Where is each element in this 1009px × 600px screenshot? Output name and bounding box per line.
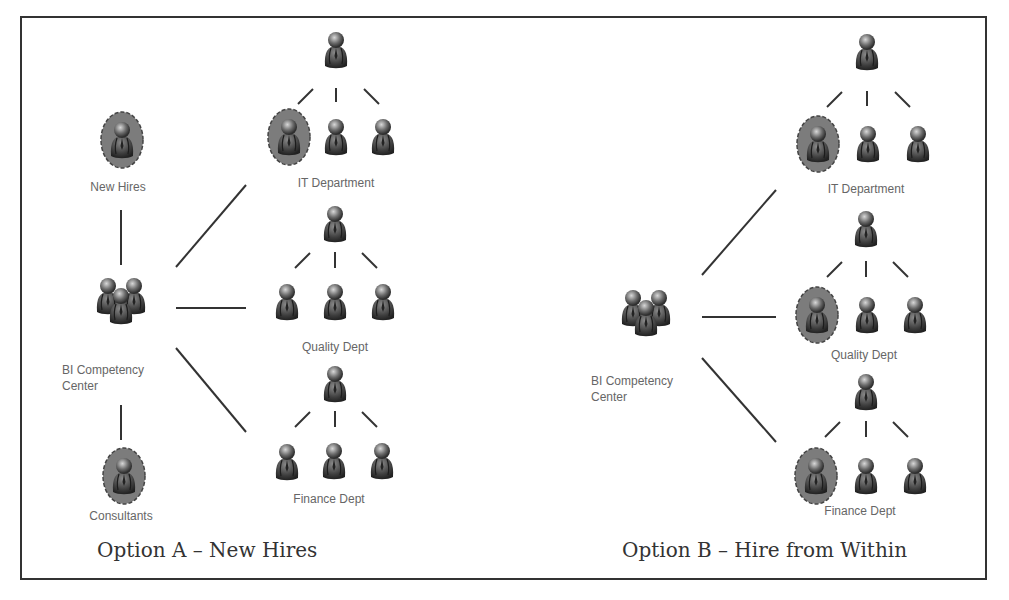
it-department-label: IT Department (298, 176, 374, 190)
bi-center-label: BI Competency Center (591, 373, 673, 405)
option-a-caption: Option A – New Hires (97, 538, 317, 562)
bi-center-label: BI Competency Center (62, 362, 144, 394)
option-b-caption: Option B – Hire from Within (622, 538, 907, 562)
quality-dept-tree (796, 211, 926, 343)
finance-dept-tree (795, 374, 926, 504)
quality-dept-label: Quality Dept (302, 340, 368, 354)
option-b-diagram (622, 34, 929, 504)
bi-center-label-line1: BI Competency (591, 373, 673, 389)
finance-dept-label: Finance Dept (293, 492, 364, 506)
it-department-label: IT Department (828, 182, 904, 196)
it-department-tree (268, 32, 394, 165)
quality-dept-tree (276, 206, 394, 320)
quality-dept-label: Quality Dept (831, 348, 897, 362)
new-hires-label: New Hires (90, 180, 145, 194)
finance-dept-tree (276, 366, 393, 480)
bi-center-label-line1: BI Competency (62, 362, 144, 378)
finance-dept-label: Finance Dept (824, 504, 895, 518)
consultants-label: Consultants (89, 509, 152, 523)
bi-center-group-icon (97, 278, 145, 324)
bi-center-group-icon (622, 290, 670, 336)
consultants-person-icon (103, 448, 145, 504)
option-a-diagram (97, 32, 394, 504)
bi-center-label-line2: Center (62, 378, 144, 394)
new-hires-person-icon (101, 112, 143, 168)
it-department-tree (797, 34, 929, 172)
bi-center-label-line2: Center (591, 389, 673, 405)
